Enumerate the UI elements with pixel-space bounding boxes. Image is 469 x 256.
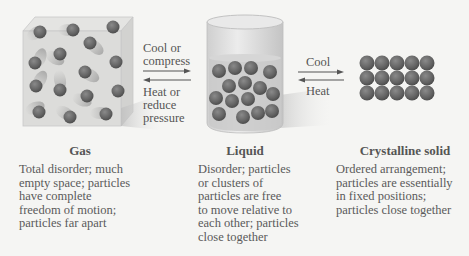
label-line: pressure [143, 112, 185, 125]
liquid-solid-arrows [298, 70, 344, 83]
desc-line: close together [198, 231, 299, 245]
liquid-beaker [207, 15, 330, 133]
gas-description: Total disorder; much empty space; partic… [19, 163, 130, 231]
desc-line: particles are essentially [336, 177, 453, 191]
solid-description: Ordered arrangement; particles are essen… [336, 163, 453, 217]
cool-label: Cool [306, 56, 330, 69]
heat-or-reduce-pressure-label: Heat or reduce pressure [143, 86, 185, 125]
gas-title: Gas [30, 143, 130, 159]
liquid-title: Liquid [195, 143, 295, 159]
desc-line: particles close together [336, 204, 453, 218]
desc-line: Total disorder; much [19, 163, 130, 177]
desc-line: freedom of motion; [19, 204, 130, 218]
desc-line: Ordered arrangement; [336, 163, 453, 177]
desc-line: empty space; particles [19, 177, 130, 191]
label-line: compress [143, 55, 190, 68]
crystalline-solid-title: Crystalline solid [345, 143, 465, 159]
desc-line: to move relative to [198, 204, 299, 218]
desc-line: particles are free [198, 190, 299, 204]
desc-line: particles far apart [19, 217, 130, 231]
heat-label: Heat [306, 85, 330, 98]
gas-container [23, 17, 160, 130]
desc-line: Disorder; particles [198, 163, 299, 177]
gas-liquid-arrows [143, 69, 191, 83]
desc-line: each other; particles [198, 217, 299, 231]
desc-line: have complete [19, 190, 130, 204]
liquid-description: Disorder; particles or clusters of parti… [198, 163, 299, 244]
cool-or-compress-label: Cool or compress [143, 42, 190, 68]
desc-line: or clusters of [198, 177, 299, 191]
solid-lattice [360, 56, 435, 101]
desc-line: in fixed positions; [336, 190, 453, 204]
